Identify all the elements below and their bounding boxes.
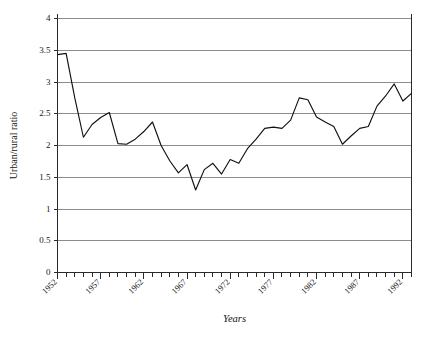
y-tick-label-4: 4 [46, 13, 51, 23]
y-tick-label-3.5: 3.5 [39, 45, 51, 55]
data-series-line [58, 53, 412, 190]
x-tick-label-1967: 1967 [169, 277, 188, 296]
x-tick-label-1972: 1972 [213, 277, 232, 296]
y-tick-label-3: 3 [46, 77, 51, 87]
x-tick-label-1982: 1982 [299, 277, 318, 296]
x-tick-label-1987: 1987 [342, 277, 361, 296]
urban-rural-ratio-line-chart: 00.511.522.533.54 1952195719621967197219… [0, 0, 444, 337]
y-tick-label-2.5: 2.5 [39, 108, 51, 118]
y-tick-label-1.5: 1.5 [39, 172, 51, 182]
x-tick-label-1957: 1957 [83, 277, 102, 296]
y-tick-label-0.5: 0.5 [39, 235, 51, 245]
chart-container: 00.511.522.533.54 1952195719621967197219… [0, 0, 444, 337]
y-tick-label-2: 2 [46, 140, 51, 150]
x-tick-labels-group: 195219571962196719721977198219871992 [40, 277, 404, 296]
x-tick-label-1992: 1992 [385, 277, 404, 296]
x-tick-marks-group [58, 273, 412, 279]
x-tick-label-1977: 1977 [256, 277, 275, 296]
x-tick-label-1952: 1952 [40, 277, 59, 296]
y-tick-label-0: 0 [46, 267, 51, 277]
y-tick-label-1: 1 [46, 204, 51, 214]
x-tick-label-1962: 1962 [126, 277, 145, 296]
y-tick-labels-group: 00.511.522.533.54 [39, 13, 51, 277]
y-axis-title: Urban/rural ratio [8, 112, 19, 179]
x-axis-title: Years [223, 313, 246, 324]
